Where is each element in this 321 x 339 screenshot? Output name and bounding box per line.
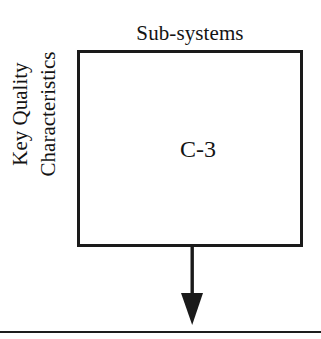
bottom-divider: [0, 331, 321, 333]
row-header-label: Key Quality Characteristics: [0, 14, 68, 214]
row-header-line-1: Key Quality: [6, 62, 34, 165]
matrix-box: C-3: [77, 50, 303, 247]
row-header-line-2: Characteristics: [34, 52, 62, 177]
matrix-cell-label: C-3: [80, 135, 300, 163]
down-arrow-icon: [170, 247, 216, 325]
diagram-canvas: Sub-systems Key Quality Characteristics …: [0, 0, 321, 339]
column-header-label: Sub-systems: [77, 20, 303, 46]
